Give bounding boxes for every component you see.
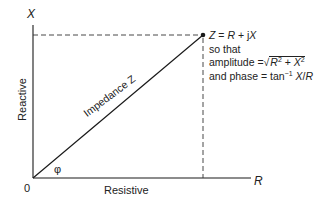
origin-label: 0 [24, 183, 30, 194]
formula-annotation: Z = R + jX so that amplitude =√R2 + X2 a… [209, 29, 313, 83]
phase-equation: and phase = tan−1 X/R [209, 70, 313, 84]
reactive-axis-label: Reactive [17, 78, 28, 122]
phase-angle-label: φ [54, 164, 61, 175]
r-axis-symbol: R [254, 175, 263, 187]
x-axis-symbol: X [27, 8, 35, 20]
so-that-text: so that [209, 43, 313, 57]
vector-endpoint-dot [201, 33, 206, 38]
impedance-equation: Z = R + jX [209, 29, 313, 43]
impedance-vector [33, 35, 203, 178]
amplitude-equation: amplitude =√R2 + X2 [209, 56, 313, 70]
resistive-axis-label: Resistive [104, 185, 149, 196]
